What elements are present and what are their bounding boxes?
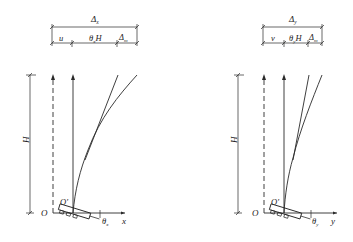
theta-y-h-label: θyH (289, 33, 302, 44)
diagram-canvas: Δx u θxH Δm H (0, 0, 353, 242)
deflection-curve (284, 75, 322, 213)
theta-x-h-label: θxH (89, 33, 102, 44)
origin-label: O (41, 208, 48, 218)
arrow-up-icon (262, 74, 266, 80)
delta-x-label: Δx (90, 14, 99, 25)
height-label: H (229, 136, 239, 144)
x-direction-diagram: Δx u θxH Δm H (21, 14, 139, 227)
v-label: v (271, 33, 275, 43)
u-label: u (59, 33, 63, 43)
tangent-line (85, 75, 118, 160)
theta-x-label: θx (102, 216, 109, 227)
delta-y-label: Δy (288, 14, 297, 25)
y-axis-label: y (330, 216, 335, 226)
tangent-line (293, 75, 309, 160)
theta-y-label: θy (312, 216, 319, 227)
arrow-up-icon (282, 74, 286, 80)
y-direction-diagram: Δy v θyH Δm H y O O' (229, 14, 337, 227)
delta-m-label: Δm (308, 32, 318, 43)
arrow-up-icon (51, 74, 55, 80)
height-label: H (21, 136, 31, 144)
arrow-up-icon (71, 74, 75, 80)
x-axis-label: x (121, 216, 126, 226)
height-dimension-line (234, 73, 244, 215)
delta-m-label: Δm (118, 32, 128, 43)
deflection-curve (73, 75, 137, 213)
origin-label: O (252, 208, 259, 218)
height-dimension-line (26, 73, 36, 215)
